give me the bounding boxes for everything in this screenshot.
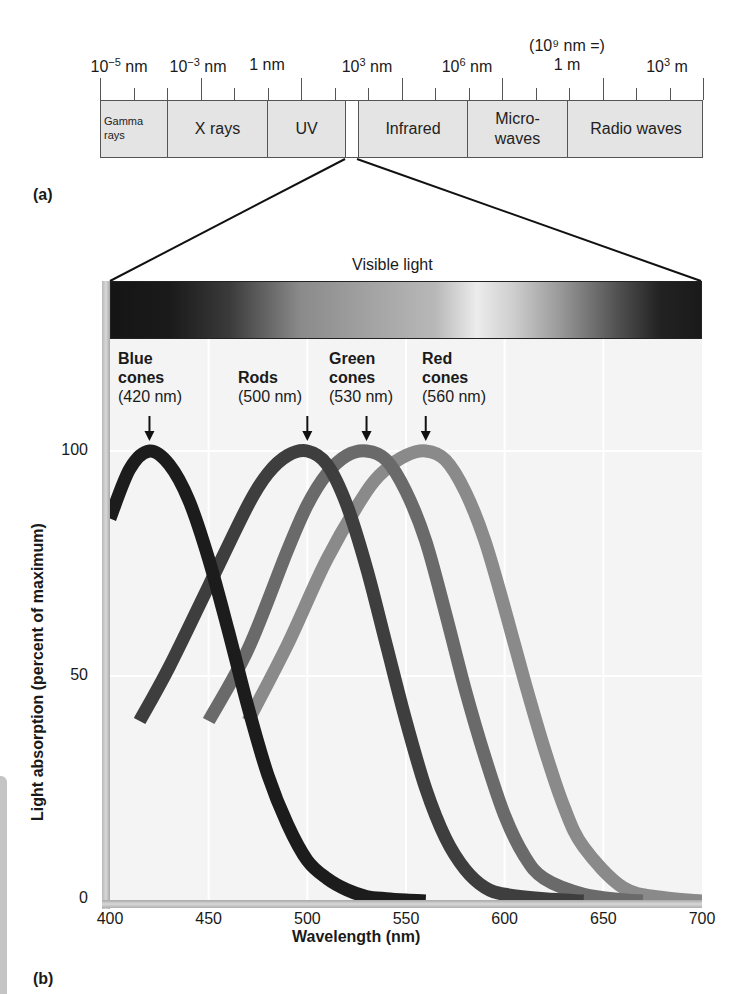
cone-label: Bluecones(420 nm) — [118, 349, 182, 406]
y-tick-100: 100 — [48, 441, 88, 459]
x-tick-600: 600 — [491, 910, 518, 928]
plot-frame-bottom — [102, 900, 702, 908]
cone-label: Redcones(560 nm) — [422, 349, 486, 406]
x-tick-650: 650 — [590, 910, 617, 928]
cone-label: Greencones(530 nm) — [329, 349, 393, 406]
page-side-tab — [0, 776, 7, 994]
zoom-connector-lines — [0, 0, 744, 300]
visible-spectrum-bar — [110, 281, 702, 339]
peak-arrows — [144, 416, 430, 441]
visible-light-title: Visible light — [352, 256, 433, 274]
x-tick-450: 450 — [195, 910, 222, 928]
arrow-down-icon — [302, 431, 312, 441]
cone-label: Rods(500 nm) — [238, 349, 302, 406]
y-tick-50: 50 — [48, 666, 88, 684]
x-tick-500: 500 — [294, 910, 321, 928]
arrow-down-icon — [421, 431, 431, 441]
x-tick-550: 550 — [393, 910, 420, 928]
y-axis-title: Light absorption (percent of maximum) — [29, 523, 47, 821]
x-tick-700: 700 — [689, 910, 716, 928]
arrow-down-icon — [362, 431, 372, 441]
arrow-down-icon — [144, 431, 154, 441]
plot-frame-left — [102, 281, 110, 909]
panel-b-label: (b) — [33, 970, 53, 988]
absorption-chart — [110, 281, 702, 901]
x-tick-400: 400 — [97, 910, 124, 928]
x-axis-title: Wavelength (nm) — [292, 928, 420, 946]
y-tick-0: 0 — [48, 889, 88, 907]
